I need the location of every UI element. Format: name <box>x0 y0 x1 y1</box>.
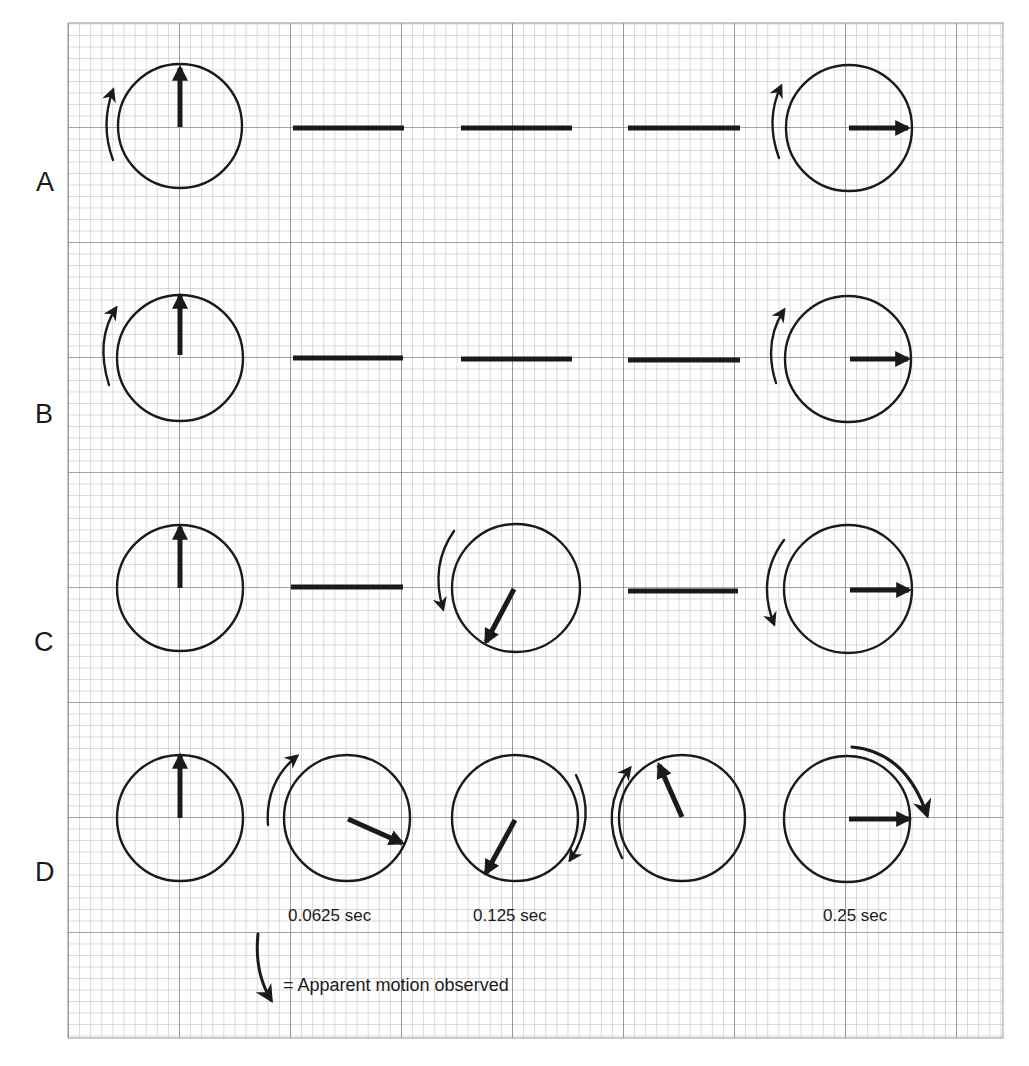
row-label-d: D <box>35 857 55 887</box>
row-labels: A B C D <box>34 167 55 887</box>
row-label-c: C <box>34 627 54 657</box>
row-label-a: A <box>36 167 54 197</box>
time-label-0-125: 0.125 sec <box>473 906 547 925</box>
time-label-0-0625: 0.0625 sec <box>288 906 372 925</box>
legend-text: = Apparent motion observed <box>283 975 509 995</box>
stroboscope-diagram: A B C D <box>0 0 1029 1066</box>
row-label-b: B <box>35 399 53 429</box>
time-label-0-25: 0.25 sec <box>823 906 888 925</box>
